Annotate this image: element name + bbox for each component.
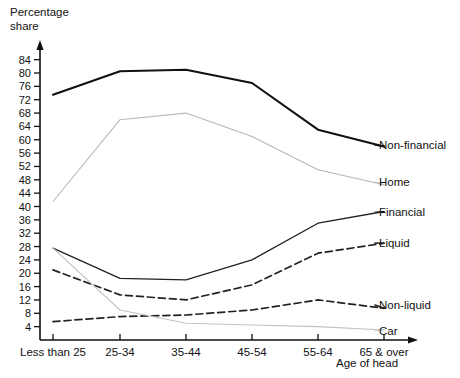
y-axis-arrow-icon [36, 40, 43, 50]
series-line [53, 243, 384, 300]
line-chart-plot: 4812162024283236404448525660646872768084… [0, 0, 460, 378]
y-tick-label: 40 [19, 201, 31, 213]
y-tick-label: 72 [19, 94, 31, 106]
y-tick-label: 60 [19, 134, 31, 146]
x-axis-title: Age of head [336, 357, 398, 371]
y-tick-label: 64 [19, 120, 31, 132]
series-label: Car [379, 325, 398, 337]
y-tick-label: 24 [19, 254, 31, 266]
chart-series-labels: Non-financialHomeFinancialLiquidNon-liqu… [379, 139, 446, 337]
chart-container: Percentageshare 481216202428323640444852… [0, 0, 460, 378]
y-tick-label: 56 [19, 147, 31, 159]
y-tick-label: 52 [19, 160, 31, 172]
series-label: Financial [379, 206, 425, 218]
y-tick-label: 68 [19, 107, 31, 119]
y-tick-label: 16 [19, 281, 31, 293]
chart-axes [36, 40, 418, 344]
y-tick-label: 84 [19, 54, 31, 66]
y-tick-label: 76 [19, 80, 31, 92]
series-label: Liquid [379, 237, 410, 249]
y-tick-label: 4 [25, 321, 31, 333]
y-tick-label: 20 [19, 267, 31, 279]
x-axis-arrow-icon [408, 336, 418, 343]
series-label: Non-liquid [379, 299, 431, 311]
series-label: Home [379, 176, 410, 188]
y-axis-ticks: 4812162024283236404448525660646872768084 [19, 54, 40, 333]
y-tick-label: 28 [19, 241, 31, 253]
y-tick-label: 32 [19, 227, 31, 239]
series-line [53, 212, 384, 280]
series-line [53, 300, 384, 322]
y-tick-label: 44 [19, 187, 31, 199]
y-tick-label: 12 [19, 294, 31, 306]
x-tick-label: 45-54 [237, 346, 267, 358]
chart-series-group [53, 70, 384, 331]
series-line [53, 113, 384, 201]
series-label: Non-financial [379, 139, 446, 151]
y-tick-label: 36 [19, 214, 31, 226]
x-tick-label: 25-34 [105, 346, 135, 358]
y-tick-label: 80 [19, 67, 31, 79]
y-tick-label: 8 [25, 307, 31, 319]
y-tick-label: 48 [19, 174, 31, 186]
x-axis-ticks: Less than 2525-3435-4445-5455-6465 & ove… [20, 334, 409, 358]
x-tick-label: 35-44 [171, 346, 201, 358]
x-tick-label: 55-64 [303, 346, 333, 358]
series-line [53, 70, 384, 147]
x-tick-label: Less than 25 [20, 346, 86, 358]
